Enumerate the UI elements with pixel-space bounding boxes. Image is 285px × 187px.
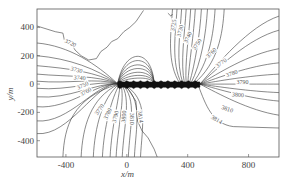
contour-line: [179, 9, 183, 84]
contour-line: [186, 9, 191, 84]
dense-band: [118, 81, 200, 89]
y-tick-label: -400: [18, 136, 35, 146]
contour-label: 3740: [73, 74, 85, 81]
contour-label: 3810: [221, 104, 234, 114]
y-tick-label: 0: [30, 79, 35, 89]
contour-label: 3720: [64, 38, 77, 49]
dense-contour-band: [118, 81, 200, 89]
contour-label: 3810: [129, 113, 135, 125]
contour-label: 3800: [232, 91, 244, 98]
contour-chart: 3720373037403750376037703780379038003810…: [0, 0, 285, 187]
x-tick-label: -400: [58, 160, 75, 170]
contour-line: [183, 9, 187, 84]
contour-label: 3790: [236, 79, 248, 85]
contour-label: 3730: [70, 65, 83, 74]
contour-line: [37, 84, 118, 134]
contour-line: [37, 10, 144, 60]
x-axis-label: x/m: [120, 169, 134, 179]
contour-label: 3790: [111, 110, 120, 123]
y-tick-label: 200: [21, 51, 35, 61]
x-tick-label: 400: [181, 160, 195, 170]
contour-label: 3800: [120, 110, 127, 122]
contour-label: 3730: [176, 24, 185, 37]
y-axis-label: y/m: [5, 87, 15, 101]
y-tick-label: 400: [21, 22, 35, 32]
contour-label: 3780: [225, 69, 238, 79]
x-tick-label: 800: [242, 160, 256, 170]
contour-label: 3725: [169, 19, 177, 32]
y-tick-label: -200: [18, 107, 35, 117]
